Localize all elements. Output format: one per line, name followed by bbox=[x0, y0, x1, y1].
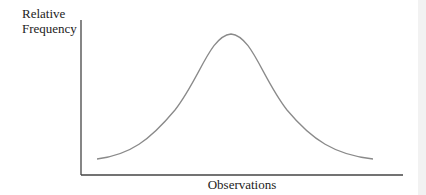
x-axis-label: Observations bbox=[0, 177, 426, 193]
bell-curve bbox=[97, 34, 373, 159]
x-axis-label-text: Observations bbox=[208, 177, 277, 192]
page-edge bbox=[418, 0, 426, 195]
bell-curve-diagram bbox=[0, 0, 426, 195]
